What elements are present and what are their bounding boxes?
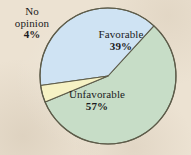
- pie-label-no-opinion-line1: No: [2, 6, 62, 18]
- pie-label-no-opinion: No opinion 4%: [2, 6, 62, 41]
- pie-label-favorable-name: Favorable: [88, 29, 154, 41]
- pie-label-unfavorable-percent: 57%: [52, 101, 142, 113]
- pie-label-favorable-percent: 39%: [88, 41, 154, 53]
- pie-label-unfavorable: Unfavorable 57%: [52, 89, 142, 112]
- pie-label-unfavorable-name: Unfavorable: [52, 89, 142, 101]
- pie-chart-figure: No opinion 4% Favorable 39% Unfavorable …: [0, 0, 191, 155]
- pie-label-no-opinion-percent: 4%: [2, 29, 62, 41]
- pie-label-favorable: Favorable 39%: [88, 29, 154, 52]
